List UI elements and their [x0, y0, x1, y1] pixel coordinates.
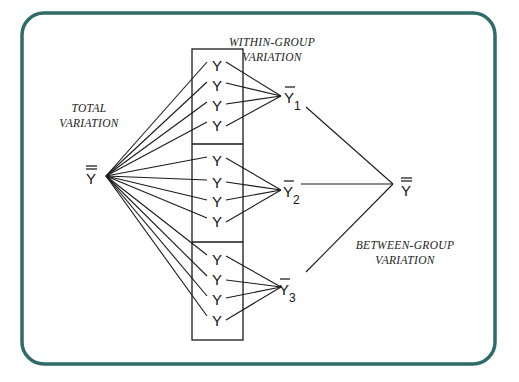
observation: Y: [212, 97, 222, 114]
svg-text:VARIATION: VARIATION: [375, 254, 436, 266]
observation: Y: [212, 57, 222, 74]
svg-text:2: 2: [293, 193, 300, 207]
observation: Y: [212, 251, 222, 268]
total-variation-label: TOTAL VARIATION: [59, 102, 120, 129]
observation: Y: [212, 174, 222, 191]
observations-group-2: Y Y Y Y: [212, 152, 222, 230]
grand-mean-left: Y: [86, 166, 97, 187]
observation: Y: [212, 193, 222, 210]
svg-text:3: 3: [289, 291, 296, 305]
svg-text:VARIATION: VARIATION: [242, 51, 303, 63]
group-mean-2: Y 2: [283, 181, 300, 207]
svg-text:Y: Y: [283, 183, 293, 200]
svg-text:1: 1: [294, 99, 301, 113]
observation: Y: [212, 117, 222, 134]
grand-mean-right: Y: [401, 178, 412, 199]
anova-variation-diagram: Y Y Y Y Y Y Y Y Y Y Y Y Y 1 Y 2 Y 3 Y: [0, 0, 519, 382]
observation: Y: [212, 77, 222, 94]
svg-text:Y: Y: [284, 89, 294, 106]
observation: Y: [212, 312, 222, 329]
svg-text:Y: Y: [86, 170, 96, 187]
svg-text:BETWEEN-GROUP: BETWEEN-GROUP: [356, 239, 454, 251]
svg-text:VARIATION: VARIATION: [59, 117, 120, 129]
observation: Y: [212, 291, 222, 308]
group-mean-1: Y 1: [284, 87, 301, 113]
observations-group-3: Y Y Y Y: [212, 251, 222, 329]
observation: Y: [212, 152, 222, 169]
svg-text:TOTAL: TOTAL: [72, 102, 107, 114]
svg-text:WITHIN-GROUP: WITHIN-GROUP: [229, 36, 315, 48]
within-group-lines: [226, 62, 281, 320]
svg-text:Y: Y: [279, 281, 289, 298]
diagram-frame: [22, 13, 495, 364]
svg-text:Y: Y: [401, 182, 411, 199]
observation: Y: [212, 213, 222, 230]
observations-group-1: Y Y Y Y: [212, 57, 222, 134]
group-mean-3: Y 3: [279, 279, 296, 305]
between-group-variation-label: BETWEEN-GROUP VARIATION: [356, 239, 454, 266]
observation: Y: [212, 271, 222, 288]
